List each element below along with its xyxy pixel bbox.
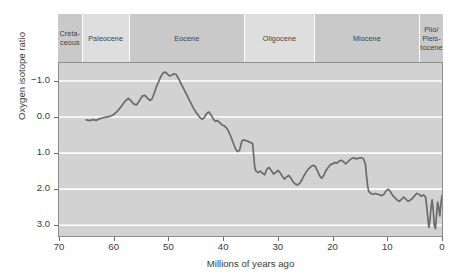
- epoch-box-oligocene: Oligocene: [245, 14, 315, 62]
- epoch-label: Plio/Pleis-tocene: [419, 25, 443, 52]
- epoch-box-miocene: Miocene: [315, 14, 420, 62]
- epoch-label: Eocene: [173, 34, 200, 43]
- epoch-label: Miocene: [352, 34, 382, 43]
- x-axis-tick-label: 40: [203, 241, 243, 252]
- x-axis-tick-label: 10: [367, 241, 407, 252]
- isotope-curve-svg: [59, 63, 442, 236]
- oxygen-isotope-chart-figure: Creta-ceousPaleoceneEoceneOligoceneMioce…: [0, 0, 465, 280]
- isotope-data-line: [86, 72, 442, 229]
- x-axis-label: Millions of years ago: [58, 258, 443, 269]
- epoch-box-paleocene: Paleocene: [83, 14, 130, 62]
- chart-plot-area: [58, 62, 443, 237]
- x-axis-tick-mark: [59, 237, 60, 241]
- x-axis-tick-mark: [168, 237, 169, 241]
- x-axis-tick-label: 0: [422, 241, 462, 252]
- geologic-epoch-bar: Creta-ceousPaleoceneEoceneOligoceneMioce…: [58, 14, 443, 62]
- x-axis-tick-mark: [114, 237, 115, 241]
- x-axis-tick-mark: [387, 237, 388, 241]
- x-axis-tick-mark: [333, 237, 334, 241]
- x-axis-tick-mark: [223, 237, 224, 241]
- epoch-label: Creta-ceous: [59, 29, 82, 47]
- x-axis-tick-label: 70: [39, 241, 79, 252]
- y-axis-tick-label: 3.0: [0, 218, 50, 229]
- epoch-label: Paleocene: [87, 34, 124, 43]
- epoch-label: Oligocene: [262, 34, 297, 43]
- y-axis-label: Oxygen isotope ratio: [16, 0, 32, 164]
- x-axis-tick-label: 20: [313, 241, 353, 252]
- epoch-box-pliopleistocene: Plio/Pleis-tocene: [420, 14, 443, 62]
- x-axis-tick-label: 60: [94, 241, 134, 252]
- x-axis-tick-label: 50: [148, 241, 188, 252]
- epoch-box-cretaceous: Creta-ceous: [58, 14, 83, 62]
- x-axis-tick-mark: [278, 237, 279, 241]
- y-axis-tick-label: 2.0: [0, 182, 50, 193]
- epoch-box-eocene: Eocene: [130, 14, 246, 62]
- x-axis-tick-mark: [442, 237, 443, 241]
- x-axis-tick-label: 30: [258, 241, 298, 252]
